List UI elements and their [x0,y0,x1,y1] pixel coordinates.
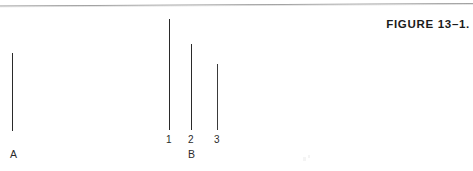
scan-speckle [308,155,310,158]
group-label-a: A [10,149,17,160]
stimulus-line-b3 [217,64,218,130]
stimulus-line-a [12,53,13,131]
stimulus-label-b2: 2 [188,134,194,145]
stimulus-line-b2 [191,44,192,130]
stimulus-line-b1 [169,19,170,130]
scan-speckle [303,157,306,161]
figure-caption: FIGURE 13–1. [386,18,470,30]
figure-page: FIGURE 13–1. A 1 2 3 B [0,0,473,171]
top-horizontal-rule [0,0,473,14]
stimulus-label-b1: 1 [166,134,172,145]
stimulus-label-b3: 3 [214,134,220,145]
group-label-b: B [188,149,195,160]
